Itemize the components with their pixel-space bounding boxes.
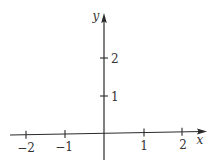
x-tick-label-neg1: −1: [55, 140, 73, 154]
y-tick-label-2: 2: [111, 52, 119, 66]
y-axis: 2 1 y: [92, 9, 119, 160]
coordinate-axes-diagram: −2 −1 1 2 x 2 1 y: [0, 0, 215, 167]
x-axis: −2 −1 1 2 x: [10, 128, 207, 155]
y-axis-arrow-icon: [101, 13, 107, 23]
x-tick-label-1: 1: [140, 139, 148, 153]
x-tick-label-2: 2: [179, 138, 187, 152]
y-axis-label: y: [92, 9, 100, 23]
x-axis-line: [10, 132, 202, 136]
y-tick-label-1: 1: [111, 90, 119, 104]
x-tick-label-neg2: −2: [17, 141, 35, 155]
x-axis-label: x: [197, 133, 204, 147]
